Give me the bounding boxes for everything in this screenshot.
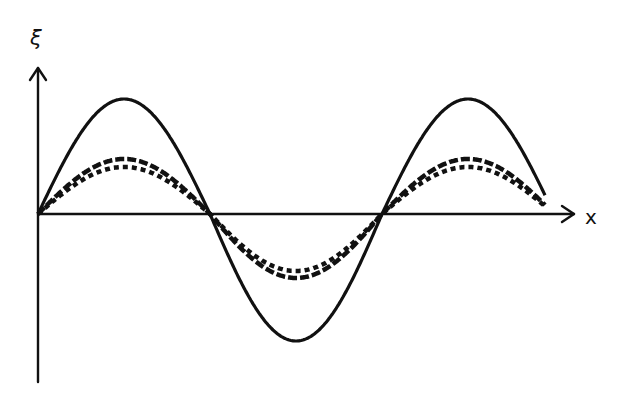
curves: [38, 99, 545, 341]
axes: [30, 68, 574, 382]
x-axis-label: x: [585, 205, 597, 229]
dotted-wave-curve: [38, 167, 545, 271]
y-axis-label: ξ: [30, 26, 42, 50]
dashed-wave-curve: [38, 159, 545, 278]
wave-diagram: [0, 0, 619, 393]
solid-wave-curve: [38, 99, 545, 341]
